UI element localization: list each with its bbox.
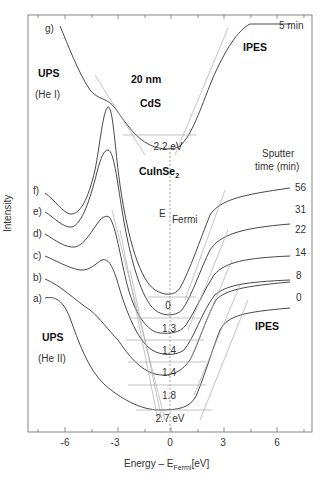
top-ticks (38, 15, 304, 19)
x-tick-label: -3 (111, 437, 120, 448)
ups-he1-sub-label: (He I) (35, 89, 60, 100)
gap-label-b: 1.8 (162, 390, 176, 401)
ipes-top-label: IPES (243, 41, 267, 53)
sputter-label-1: Sputter (262, 148, 294, 159)
cuinse2-sub: 2 (175, 172, 179, 179)
tangents-g (95, 28, 228, 155)
x-axis-label-sub: Fermi (173, 464, 191, 471)
cuinse2-label: CuInSe2 (139, 165, 179, 179)
ups-he2-sub-label: (He II) (38, 353, 66, 364)
sputter-label-2: time (min) (255, 161, 299, 172)
time-label-f: 56 (295, 182, 306, 193)
bottom-ticks (38, 427, 304, 432)
gap-label-c: 1.4 (162, 367, 176, 378)
ups-he2-label: UPS (42, 331, 64, 343)
ups-he1-label: UPS (38, 67, 60, 79)
time-label-d: 22 (295, 224, 306, 235)
cds-label: CdS (140, 97, 161, 109)
time-label-g: 5 min (279, 20, 303, 31)
thickness-label: 20 nm (131, 73, 161, 85)
x-tick-label: -6 (61, 437, 70, 448)
gap-label-e: 1.3 (162, 323, 176, 334)
curve-label-g: g) (45, 23, 54, 34)
curve-label-d: d) (33, 228, 42, 239)
curve-label-b: b) (33, 272, 42, 283)
gap-label-d: 1.4 (162, 345, 176, 356)
gap-label-f: 0 (165, 300, 171, 311)
x-tick-label: 3 (220, 437, 226, 448)
ipes-bottom-label: IPES (255, 320, 279, 332)
time-label-c: 14 (295, 247, 306, 258)
curve-label-a: a) (33, 293, 42, 304)
x-tick-label: 0 (167, 437, 173, 448)
curve-label-c: c) (33, 250, 41, 261)
time-label-e: 31 (295, 204, 306, 215)
x-axis-label-main: Energy – E (124, 458, 173, 469)
curve-d (45, 216, 290, 333)
time-label-b: 8 (296, 270, 302, 281)
curve-label-f: f) (33, 185, 39, 196)
x-axis-label: Energy – EFermi[eV] (124, 458, 209, 471)
efermi-sub-label: Fermi (172, 214, 198, 225)
curve-label-e: e) (33, 206, 42, 217)
gap-label-g: 2.2 eV (154, 141, 183, 152)
y-axis-label: Intensity (2, 195, 13, 232)
efermi-e-label: E (159, 208, 166, 219)
x-axis-label-unit: [eV] (191, 458, 209, 469)
gap-label-a: 2.7 eV (156, 413, 185, 424)
cuinse2-text: CuInSe (139, 165, 175, 177)
time-label-a: 0 (296, 292, 302, 303)
x-tick-label: 6 (274, 437, 280, 448)
